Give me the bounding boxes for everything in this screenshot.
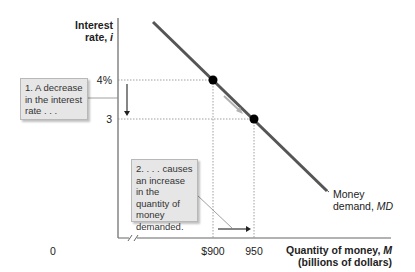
x-axis-title-line1: Quantity of money, M xyxy=(280,244,392,256)
y-tick-4: 4% xyxy=(92,74,112,86)
x-tick-origin: 0 xyxy=(50,245,60,257)
down-arrow-icon xyxy=(124,84,130,116)
y-axis-title: Interest rate, i xyxy=(60,19,113,43)
x-axis-variable: M xyxy=(383,244,392,256)
x-axis-title-text: Quantity of money, xyxy=(286,244,383,256)
curve-label-variable: MD xyxy=(377,200,393,212)
x-tick-900: $900 xyxy=(198,245,228,257)
x-tick-950: 950 xyxy=(241,245,267,257)
y-axis-title-line1: Interest xyxy=(60,19,113,31)
point-950-3 xyxy=(250,115,259,124)
callout-one: 1. A decrease in the interest rate . . . xyxy=(20,78,88,120)
y-axis-variable: i xyxy=(110,31,113,43)
y-tick-3: 3 xyxy=(92,113,112,125)
curve-label-line1: Money xyxy=(333,188,413,200)
right-arrow-icon xyxy=(218,226,251,232)
curve-label-text: demand, xyxy=(333,200,377,212)
x-axis-title: Quantity of money, M (billions of dollar… xyxy=(280,244,392,268)
axis-break-icon xyxy=(128,234,138,242)
y-axis-title-text: rate, xyxy=(85,31,110,43)
callout-two: 2. . . . causes an increase in the quant… xyxy=(131,159,198,222)
callout-two-leader xyxy=(197,195,232,228)
curve-label-line2: demand, MD xyxy=(333,200,413,212)
point-900-4 xyxy=(209,76,218,85)
curve-label: Money demand, MD xyxy=(333,188,413,212)
y-axis-title-line2: rate, i xyxy=(60,31,113,43)
x-axis-title-line2: (billions of dollars) xyxy=(280,256,392,268)
